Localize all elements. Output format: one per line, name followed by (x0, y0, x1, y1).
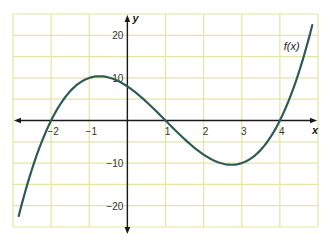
x-tick-label: −1 (86, 126, 98, 137)
x-axis-left-arrow-icon (14, 118, 21, 124)
x-tick-label: 4 (279, 126, 285, 137)
y-axis-up-arrow-icon (125, 15, 131, 22)
y-axis-down-arrow-icon (125, 227, 131, 234)
y-axis-label: y (131, 12, 139, 24)
y-tick-label: −20 (106, 201, 123, 212)
function-label: f(x) (284, 40, 300, 52)
function-graph: −2−112342010−10−20 x y f(x) (0, 0, 332, 240)
x-tick-label: 3 (241, 126, 247, 137)
y-tick-label: 20 (112, 30, 124, 41)
x-tick-label: 2 (203, 126, 209, 137)
x-axis-label: x (311, 124, 319, 136)
y-tick-label: −10 (106, 158, 123, 169)
x-tick-label: 1 (165, 126, 171, 137)
x-axis-right-arrow-icon (310, 118, 317, 124)
x-tick-label: −2 (47, 126, 59, 137)
